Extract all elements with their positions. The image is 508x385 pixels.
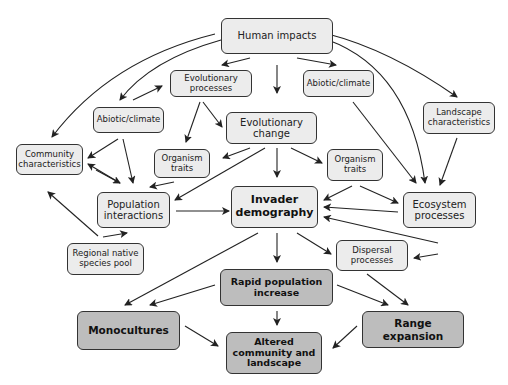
node-evolutionary-change: Evolutionary change bbox=[226, 112, 317, 144]
node-rapid-population-increase: Rapid population increase bbox=[220, 269, 333, 306]
node-regional-native-species-pool: Regional native species pool bbox=[67, 243, 144, 275]
node-altered-community-and-landscape: Altered community and landscape bbox=[226, 332, 322, 374]
node-abiotic-climate-right: Abiotic/climate bbox=[303, 70, 374, 97]
node-ecosystem-processes: Ecosystem processes bbox=[403, 192, 476, 228]
node-range-expansion: Range expansion bbox=[362, 311, 464, 348]
node-organism-traits-right: Organism traits bbox=[327, 149, 383, 181]
node-community-characteristics: Community characteristics bbox=[16, 144, 83, 175]
node-organism-traits-left: Organism traits bbox=[154, 149, 210, 178]
node-landscape-characteristics: Landscape characteristics bbox=[423, 102, 495, 134]
node-monocultures: Monocultures bbox=[77, 311, 180, 350]
node-human-impacts: Human impacts bbox=[221, 18, 333, 54]
node-abiotic-climate-left: Abiotic/climate bbox=[93, 107, 164, 133]
node-invader-demography: Invader demography bbox=[231, 186, 318, 228]
node-evolutionary-processes: Evolutionary processes bbox=[170, 70, 252, 97]
node-dispersal-processes: Dispersal processes bbox=[336, 240, 408, 271]
node-population-interactions: Population interactions bbox=[97, 192, 170, 228]
